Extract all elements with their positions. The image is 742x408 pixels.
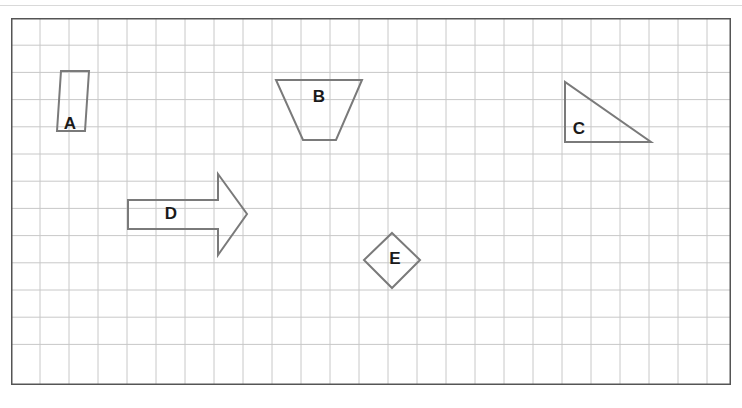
shape-label-c: C [573,119,585,138]
worksheet-canvas: ABCDE [0,0,742,408]
shape-label-b: B [313,87,325,106]
shape-label-e: E [389,249,400,268]
top-divider-rule [0,5,742,6]
grid-frame: ABCDE [11,18,731,385]
shape-d-block-arrow-right [128,174,247,255]
shape-label-a: A [64,114,76,133]
shape-labels-group: ABCDE [64,87,585,268]
shape-label-d: D [165,204,177,223]
grid-lines-group [11,18,731,385]
grid-drawing: ABCDE [11,18,731,385]
grid-outer-border [12,19,731,385]
